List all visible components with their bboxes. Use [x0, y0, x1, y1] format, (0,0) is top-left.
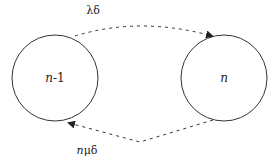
- death-rate-var: n: [77, 144, 84, 157]
- birth-death-diagram: n-1 n λδ nμδ: [0, 0, 275, 165]
- state-node-n-minus-1: n-1: [12, 35, 98, 121]
- birth-arrow: [75, 26, 212, 36]
- death-rate-label: nμδ: [77, 144, 98, 157]
- state-label-n: n: [220, 71, 228, 85]
- death-rate-rest: μδ: [84, 144, 98, 157]
- state-label-var: n: [45, 71, 53, 85]
- birth-rate-label: λδ: [86, 4, 100, 17]
- transition-death: nμδ: [69, 120, 213, 157]
- state-node-n: n: [181, 35, 267, 121]
- death-arrow: [69, 120, 213, 142]
- state-label-suffix: -1: [53, 71, 65, 85]
- state-label-var: n: [220, 71, 228, 85]
- transition-birth: λδ: [75, 4, 212, 36]
- state-label-n-minus-1: n-1: [45, 71, 64, 85]
